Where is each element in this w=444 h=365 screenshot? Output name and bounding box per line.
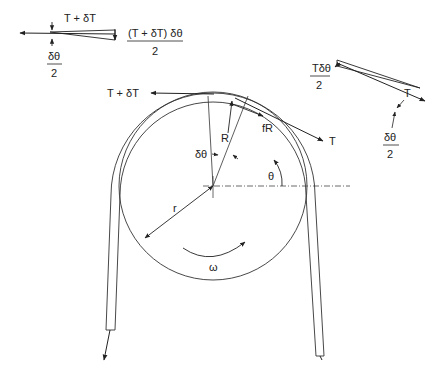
- tension-overlay: [0, 0, 444, 365]
